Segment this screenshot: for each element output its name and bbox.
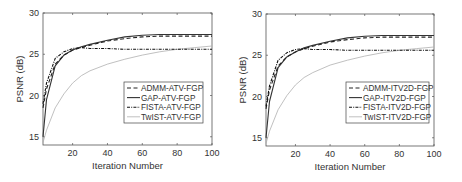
x-tick-label: 100	[204, 148, 219, 158]
x-tick-label: 80	[172, 148, 182, 158]
legend-label: TwIST-ITV2D-FGP	[363, 113, 432, 122]
legend-label: FISTA-ITV2D-FGP	[363, 103, 432, 112]
chart-left: 2040608010015202530Iteration NumberPSNR …	[0, 0, 231, 182]
y-tick-label: 15	[29, 132, 39, 142]
x-tick-label: 60	[360, 149, 370, 159]
plot-area	[43, 13, 212, 145]
y-tick-label: 15	[252, 133, 262, 143]
x-tick-label: 100	[426, 149, 441, 159]
chart-right: 2040608010015202530Iteration NumberPSNR …	[231, 0, 462, 182]
chart-left-svg: 2040608010015202530Iteration NumberPSNR …	[0, 0, 231, 182]
x-axis-label: Iteration Number	[92, 160, 163, 171]
x-tick-label: 40	[102, 148, 112, 158]
y-tick-label: 20	[29, 91, 39, 101]
legend-label: ADMM-ITV2D-FGP	[363, 84, 434, 93]
x-tick-label: 20	[68, 148, 78, 158]
y-axis-label: PSNR (dB)	[237, 57, 248, 104]
y-tick-label: 25	[252, 50, 262, 60]
y-axis-label: PSNR (dB)	[14, 56, 25, 103]
chart-right-svg: 2040608010015202530Iteration NumberPSNR …	[231, 0, 462, 182]
x-tick-label: 40	[325, 149, 335, 159]
y-tick-label: 20	[252, 92, 262, 102]
legend-label: TwIST-ATV-FGP	[141, 113, 201, 122]
plot-area	[266, 14, 434, 146]
legend-label: GAP-ITV2D-FGP	[363, 94, 426, 103]
legend-label: ADMM-ATV-FGP	[141, 84, 204, 93]
y-tick-label: 25	[29, 49, 39, 59]
y-tick-label: 30	[29, 8, 39, 18]
x-axis-label: Iteration Number	[315, 161, 386, 172]
legend-label: GAP-ATV-FGP	[141, 94, 196, 103]
y-tick-label: 30	[252, 9, 262, 19]
x-tick-label: 80	[394, 149, 404, 159]
x-tick-label: 60	[137, 148, 147, 158]
x-tick-label: 20	[290, 149, 300, 159]
legend-label: FISTA-ATV-FGP	[141, 103, 201, 112]
